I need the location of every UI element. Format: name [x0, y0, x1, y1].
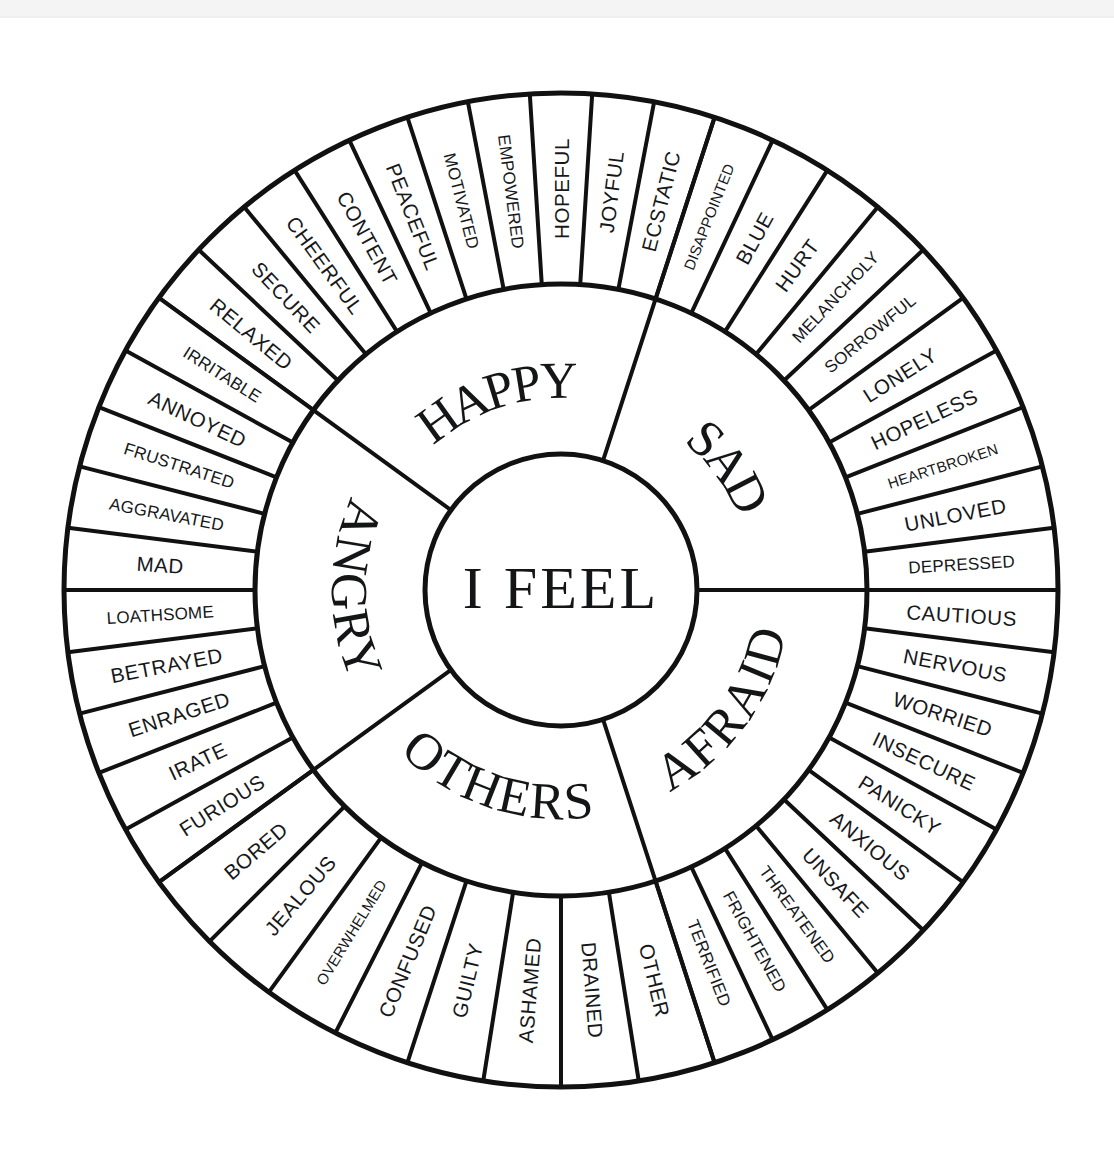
category-label[interactable]: OTHERS	[392, 718, 597, 831]
center-label: I FEEL	[463, 555, 659, 621]
category-label[interactable]: SAD	[676, 408, 782, 525]
emotion-label: MAD	[136, 552, 185, 578]
emotion-wheel-page: RELAXEDSECURECHEERFULCONTENTPEACEFULMOTI…	[0, 0, 1114, 1170]
center-hub: I FEEL	[463, 555, 659, 621]
category-label[interactable]: AFRAID	[645, 619, 798, 802]
category-label[interactable]: ANGRY	[321, 493, 395, 687]
emotion-wheel-svg: RELAXEDSECURECHEERFULCONTENTPEACEFULMOTI…	[0, 0, 1114, 1170]
emotion-label: HOPEFUL	[550, 138, 573, 239]
category-label[interactable]: HAPPY	[406, 352, 580, 455]
